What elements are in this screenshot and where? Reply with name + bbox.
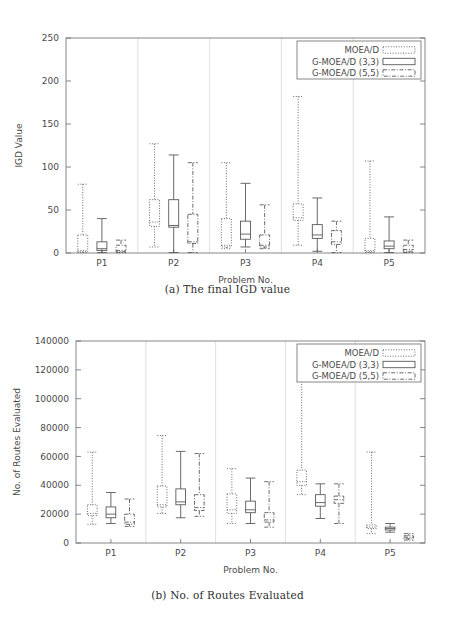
box-iqr <box>241 221 251 239</box>
boxplot <box>227 469 237 524</box>
y-tick-label: 200 <box>42 76 59 86</box>
boxplot <box>188 163 198 253</box>
y-tick-label: 40000 <box>40 480 69 490</box>
x-tick-label: P3 <box>245 548 256 558</box>
series-solid <box>106 451 395 532</box>
boxplot <box>264 482 274 527</box>
x-axis-title: Problem No. <box>218 275 273 283</box>
series-dashdot <box>116 163 413 253</box>
box-iqr <box>312 225 322 239</box>
box-iqr <box>365 238 375 251</box>
figure-a-caption: (a) The final IGD value <box>0 283 455 295</box>
y-tick-label: 80000 <box>40 423 69 433</box>
box-iqr <box>297 470 307 485</box>
box-iqr <box>188 214 198 243</box>
legend-label-1: G-MOEA/D (3,3) <box>312 57 379 67</box>
boxplot <box>365 161 375 253</box>
boxplot <box>384 217 394 253</box>
legend-label-0: MOEA/D <box>344 45 379 55</box>
box-iqr <box>125 514 135 524</box>
y-tick-label: 120000 <box>35 365 70 375</box>
boxplot <box>403 240 413 252</box>
boxplot <box>315 484 325 519</box>
y-tick-label: 150 <box>42 119 59 129</box>
box-iqr <box>384 241 394 249</box>
boxplot <box>194 454 204 517</box>
x-tick-label: P4 <box>312 258 323 268</box>
box-iqr <box>227 494 237 513</box>
series-dot <box>87 381 376 533</box>
y-tick-label: 100 <box>42 162 59 172</box>
figure-b-routes-evaluated: 020000400006000080000100000120000140000P… <box>0 305 455 619</box>
box-iqr <box>194 495 204 511</box>
y-tick-label: 60000 <box>40 452 69 462</box>
y-tick-label: 0 <box>63 538 69 548</box>
box-iqr <box>264 513 274 522</box>
boxplot <box>312 198 322 251</box>
box-iqr <box>87 505 97 516</box>
box-iqr <box>403 245 413 251</box>
box-iqr <box>169 200 179 228</box>
boxplot <box>331 221 341 252</box>
box-iqr <box>176 489 186 505</box>
x-tick-label: P1 <box>96 258 107 268</box>
boxplot <box>176 451 186 517</box>
y-tick-label: 0 <box>53 248 59 258</box>
x-tick-label: P1 <box>105 548 116 558</box>
boxplot <box>116 240 126 252</box>
series-dot <box>78 96 375 252</box>
legend-label-1: G-MOEA/D (3,3) <box>312 360 379 370</box>
box-iqr <box>78 235 88 252</box>
legend-label-0: MOEA/D <box>344 348 379 358</box>
box-iqr <box>106 507 116 518</box>
y-tick-label: 140000 <box>35 336 70 346</box>
legend-label-2: G-MOEA/D (5,5) <box>312 68 379 78</box>
boxplot <box>87 452 97 524</box>
boxplot-chart-igd-value: 050100150200250P1P2P3P4P5Problem No.IGD … <box>0 0 455 283</box>
box-iqr <box>246 501 256 513</box>
x-tick-label: P3 <box>240 258 251 268</box>
y-tick-label: 20000 <box>40 509 69 519</box>
y-tick-label: 100000 <box>35 394 70 404</box>
boxplot <box>150 144 160 247</box>
y-axis-title: IGD Value <box>14 123 24 168</box>
figure-b-caption: (b) No. of Routes Evaluated <box>0 589 455 601</box>
boxplot <box>241 183 251 247</box>
box-iqr <box>221 219 231 247</box>
boxplot <box>334 484 344 524</box>
boxplot <box>221 163 231 249</box>
boxplot <box>293 96 303 245</box>
boxplot <box>169 155 179 253</box>
box-iqr <box>157 486 167 507</box>
y-tick-label: 50 <box>48 205 60 215</box>
legend-label-2: G-MOEA/D (5,5) <box>312 371 379 381</box>
boxplot <box>246 478 256 523</box>
figure-page: 050100150200250P1P2P3P4P5Problem No.IGD … <box>0 0 455 619</box>
boxplot <box>78 184 88 252</box>
y-tick-label: 250 <box>42 33 59 43</box>
boxplot <box>297 381 307 494</box>
boxplot <box>260 205 270 249</box>
box-iqr <box>315 495 325 507</box>
series-solid <box>97 155 394 253</box>
boxplot-chart-routes-evaluated: 020000400006000080000100000120000140000P… <box>0 305 455 589</box>
x-tick-label: P5 <box>385 548 396 558</box>
y-axis-title: No. of Routes Evaluated <box>12 388 22 496</box>
boxplot <box>97 219 107 253</box>
x-axis-title: Problem No. <box>223 565 278 575</box>
boxplot <box>385 524 395 533</box>
box-iqr <box>331 231 341 245</box>
figure-a-igd-value: 050100150200250P1P2P3P4P5Problem No.IGD … <box>0 0 455 310</box>
x-tick-label: P2 <box>168 258 179 268</box>
x-tick-label: P4 <box>315 548 326 558</box>
boxplot <box>157 436 167 514</box>
boxplot <box>125 499 135 526</box>
boxplot <box>367 452 377 534</box>
boxplot <box>106 493 116 524</box>
x-tick-label: P5 <box>384 258 395 268</box>
x-tick-label: P2 <box>175 548 186 558</box>
boxplot <box>404 534 414 540</box>
